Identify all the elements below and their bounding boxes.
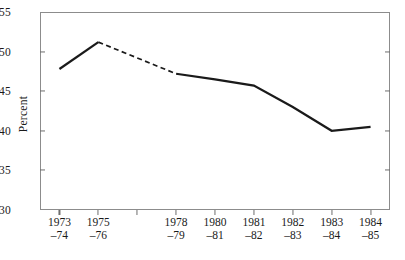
data-series-layer — [0, 0, 405, 260]
series-segment-dashed — [98, 42, 176, 74]
series-segment-solid-early — [59, 42, 98, 69]
line-chart: Percent 303540455055 1973–741975–761978–… — [0, 0, 405, 260]
series-segment-solid-late — [176, 74, 370, 131]
